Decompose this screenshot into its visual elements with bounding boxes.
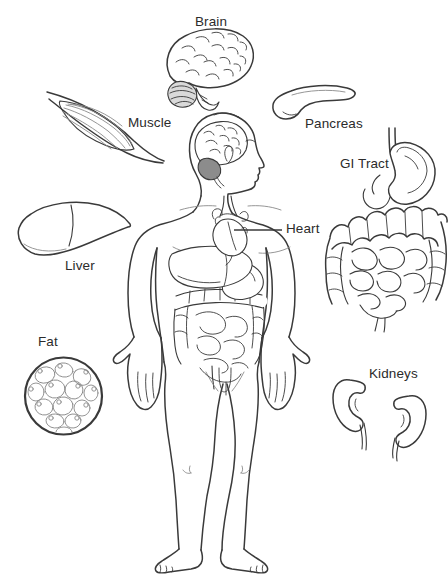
brain-illustration [167, 29, 253, 110]
pancreas-illustration [273, 86, 355, 119]
heart-label: Heart [286, 222, 320, 236]
kidneys-label: Kidneys [369, 367, 418, 381]
fat-illustration [25, 358, 102, 438]
liver-illustration [18, 202, 130, 255]
liver-label: Liver [65, 259, 95, 273]
kidneys-illustration [333, 380, 426, 461]
muscle-label: Muscle [128, 116, 171, 130]
body-illustration [113, 113, 309, 573]
organ-diagram: Brain Muscle Pancreas GI Tract Heart Liv… [0, 0, 448, 578]
diagram-artwork [0, 0, 448, 578]
pancreas-label: Pancreas [305, 117, 363, 131]
gi-tract-label: GI Tract [340, 157, 389, 171]
fat-label: Fat [38, 335, 58, 349]
brain-label: Brain [195, 15, 227, 29]
